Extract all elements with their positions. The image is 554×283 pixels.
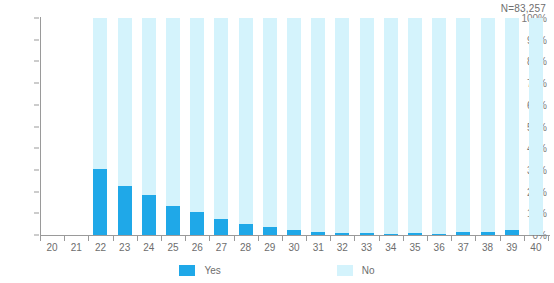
x-axis-tick-mark	[524, 236, 525, 241]
x-axis-tick-mark	[137, 236, 138, 241]
bar-group[interactable]	[481, 18, 495, 235]
bar-group[interactable]	[190, 18, 204, 235]
x-axis-tick-label: 34	[385, 242, 396, 253]
bar-group[interactable]	[142, 18, 156, 235]
x-axis-tick-mark	[403, 236, 404, 241]
bar-segment-no[interactable]	[432, 18, 446, 235]
bar-segment-no[interactable]	[287, 18, 301, 235]
y-axis-tick-mark	[34, 39, 39, 40]
chart-legend: YesNo	[0, 261, 554, 279]
bar-group[interactable]	[263, 18, 277, 235]
y-axis-tick-mark	[34, 169, 39, 170]
bar-segment-no[interactable]	[384, 18, 398, 235]
y-axis-tick-mark	[34, 235, 39, 236]
bar-segment-no[interactable]	[311, 18, 325, 235]
bar-segment-yes[interactable]	[166, 206, 180, 235]
bar-segment-no[interactable]	[166, 18, 180, 235]
bar-segment-yes[interactable]	[214, 219, 228, 235]
bar-segment-yes[interactable]	[408, 233, 422, 235]
y-axis-tick-mark	[34, 213, 39, 214]
bar-segment-yes[interactable]	[505, 230, 519, 235]
bar-group[interactable]	[408, 18, 422, 235]
bar-group[interactable]	[287, 18, 301, 235]
bar-segment-yes[interactable]	[239, 224, 253, 235]
bar-segment-yes[interactable]	[360, 233, 374, 235]
bar-group[interactable]	[69, 18, 83, 235]
bar-segment-yes[interactable]	[456, 232, 470, 235]
plot-area	[40, 18, 548, 235]
bar-group[interactable]	[239, 18, 253, 235]
chart-container: N=83,257 0%10%20%30%40%50%60%70%80%90%10…	[0, 0, 554, 283]
bar-segment-no[interactable]	[214, 18, 228, 235]
legend-swatch-icon	[337, 265, 353, 276]
x-axis-tick-label: 27	[216, 242, 227, 253]
x-axis-tick-mark	[500, 236, 501, 241]
bar-group[interactable]	[166, 18, 180, 235]
x-axis-tick-mark	[306, 236, 307, 241]
bar-segment-no[interactable]	[505, 18, 519, 235]
bar-segment-no[interactable]	[239, 18, 253, 235]
bar-group[interactable]	[456, 18, 470, 235]
bar-group[interactable]	[505, 18, 519, 235]
x-axis-tick-label: 37	[458, 242, 469, 253]
x-axis-tick-mark	[161, 236, 162, 241]
bar-group[interactable]	[214, 18, 228, 235]
x-axis-tick-label: 40	[530, 242, 541, 253]
bar-segment-no[interactable]	[190, 18, 204, 235]
legend-label: No	[362, 265, 375, 276]
x-axis-tick-mark	[40, 236, 41, 241]
bar-segment-no[interactable]	[481, 18, 495, 235]
bar-segment-yes[interactable]	[142, 195, 156, 235]
bar-group[interactable]	[118, 18, 132, 235]
bar-segment-yes[interactable]	[311, 232, 325, 235]
bar-segment-no[interactable]	[263, 18, 277, 235]
x-axis-tick-mark	[113, 236, 114, 241]
bar-segment-no[interactable]	[456, 18, 470, 235]
x-axis-tick-mark	[185, 236, 186, 241]
bar-group[interactable]	[384, 18, 398, 235]
x-axis-tick-mark	[451, 236, 452, 241]
legend-item-no[interactable]: No	[337, 265, 375, 276]
bar-segment-yes[interactable]	[384, 234, 398, 235]
x-axis-tick-label: 20	[47, 242, 58, 253]
x-axis-tick-mark	[282, 236, 283, 241]
legend-item-yes[interactable]: Yes	[179, 265, 220, 276]
x-axis-tick-mark	[548, 236, 549, 241]
x-axis-tick-mark	[64, 236, 65, 241]
x-axis-tick-mark	[475, 236, 476, 241]
bar-segment-yes[interactable]	[190, 212, 204, 235]
bar-segment-yes[interactable]	[287, 230, 301, 235]
bar-segment-no[interactable]	[335, 18, 349, 235]
legend-label: Yes	[204, 265, 220, 276]
bar-segment-yes[interactable]	[263, 227, 277, 235]
bar-group[interactable]	[45, 18, 59, 235]
bar-group[interactable]	[529, 18, 543, 235]
bar-segment-no[interactable]	[408, 18, 422, 235]
x-axis-tick-label: 25	[167, 242, 178, 253]
x-axis-tick-mark	[354, 236, 355, 241]
x-axis-tick-label: 39	[506, 242, 517, 253]
x-axis-tick-label: 24	[143, 242, 154, 253]
x-axis-line	[40, 235, 550, 236]
bar-group[interactable]	[360, 18, 374, 235]
bar-segment-yes[interactable]	[118, 186, 132, 235]
bar-segment-yes[interactable]	[335, 233, 349, 235]
y-axis-tick-mark	[34, 191, 39, 192]
bar-group[interactable]	[432, 18, 446, 235]
bar-group[interactable]	[335, 18, 349, 235]
bar-segment-yes[interactable]	[93, 169, 107, 235]
y-axis-tick-mark	[34, 18, 39, 19]
y-axis-tick-mark	[34, 148, 39, 149]
bar-segment-no[interactable]	[360, 18, 374, 235]
x-axis-tick-label: 36	[434, 242, 445, 253]
bar-group[interactable]	[311, 18, 325, 235]
bar-group[interactable]	[93, 18, 107, 235]
x-axis-tick-label: 31	[313, 242, 324, 253]
bar-segment-yes[interactable]	[481, 232, 495, 235]
y-axis-tick-mark	[34, 126, 39, 127]
x-axis-tick-mark	[209, 236, 210, 241]
x-axis-tick-label: 32	[337, 242, 348, 253]
x-axis-tick-label: 29	[264, 242, 275, 253]
bar-segment-no[interactable]	[529, 18, 543, 235]
bar-segment-yes[interactable]	[432, 234, 446, 235]
